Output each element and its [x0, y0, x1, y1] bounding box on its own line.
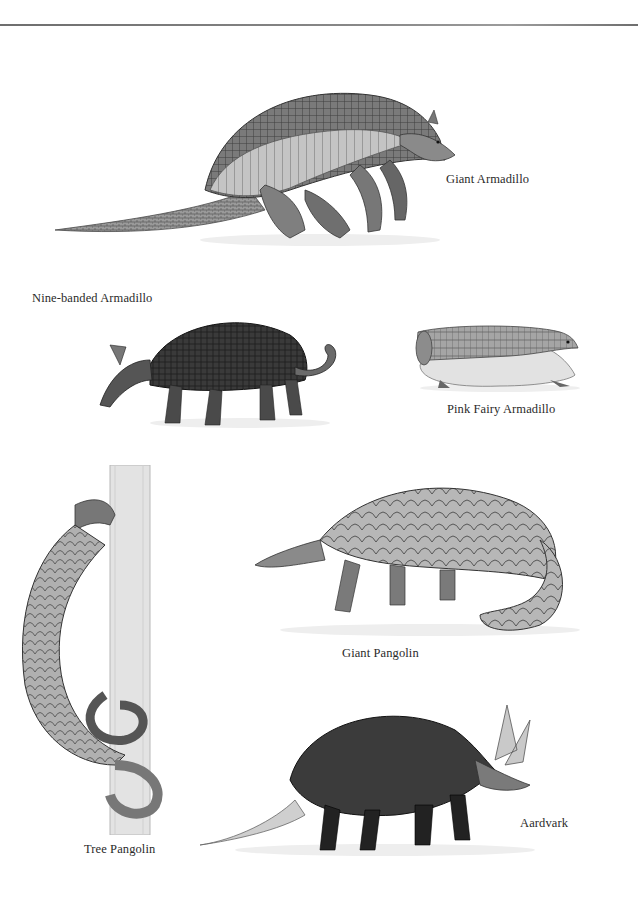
label-tree-pangolin: Tree Pangolin	[84, 842, 155, 857]
tree-pangolin-illustration	[15, 465, 185, 835]
top-rule	[0, 24, 638, 26]
label-giant-pangolin: Giant Pangolin	[342, 646, 419, 661]
label-aardvark: Aardvark	[520, 816, 568, 831]
giant-pangolin-illustration	[250, 470, 610, 640]
label-pink-fairy-armadillo: Pink Fairy Armadillo	[447, 402, 555, 417]
label-giant-armadillo: Giant Armadillo	[446, 172, 529, 187]
pink-fairy-armadillo-illustration	[410, 320, 585, 395]
nine-banded-armadillo-illustration	[90, 305, 350, 440]
aardvark-illustration	[195, 700, 555, 860]
giant-armadillo-illustration	[50, 80, 460, 250]
label-nine-banded-armadillo: Nine-banded Armadillo	[32, 291, 152, 306]
